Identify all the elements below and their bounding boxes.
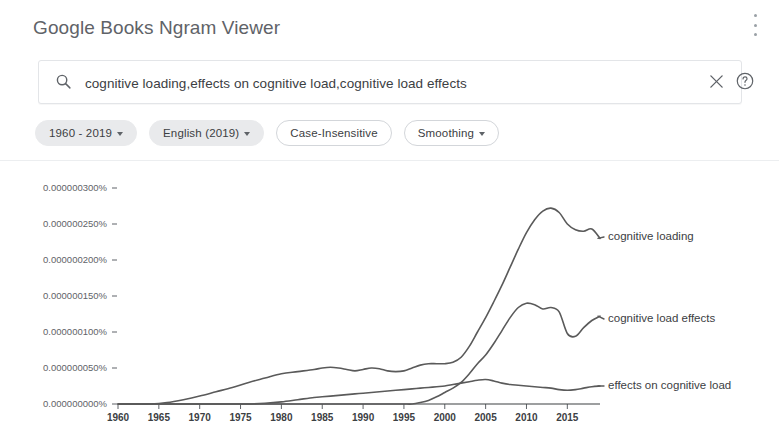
x-tick-label: 1980 [270,412,293,423]
chevron-down-icon [479,132,485,136]
y-tick-label: 0.000000200% [43,254,107,265]
y-tick-label: 0.000000300% [43,182,107,193]
y-tick-label: 0.000000150% [43,290,107,301]
more-vert-dot [754,14,757,17]
x-tick-label: 1995 [393,412,416,423]
y-tick-label: 0.000000000% [43,398,107,409]
search-icon [55,73,72,90]
series-line[interactable] [118,303,600,404]
chip-case-insensitive[interactable]: Case-Insensitive [276,120,391,146]
series-labels: cognitive loadingcognitive load effectse… [598,230,731,391]
chip-case-insensitive-label: Case-Insensitive [290,127,377,139]
more-vert-icon[interactable] [748,12,762,38]
chip-corpus-label: English (2019) [163,127,239,139]
close-icon[interactable] [709,74,724,89]
series-leader-line [598,316,604,319]
x-tick-label: 1965 [148,412,171,423]
y-tick-label: 0.000000100% [43,326,107,337]
chip-date-range-label: 1960 - 2019 [49,127,112,139]
more-vert-dot [754,24,757,27]
x-tick-label: 2010 [515,412,538,423]
x-tick-label: 1985 [311,412,334,423]
y-axis: 0.000000000%0.000000050%0.000000100%0.00… [43,182,117,409]
ngram-chart[interactable]: 0.000000000%0.000000050%0.000000100%0.00… [0,166,779,431]
chevron-down-icon [117,132,123,136]
filter-chips: 1960 - 2019 English (2019) Case-Insensit… [35,120,499,146]
x-axis: 1960196519701975198019851990199520002005… [107,404,579,423]
chip-date-range[interactable]: 1960 - 2019 [35,120,137,146]
x-tick-label: 2000 [434,412,457,423]
page-title: Google Books Ngram Viewer [33,17,280,39]
chart-canvas[interactable]: 0.000000000%0.000000050%0.000000100%0.00… [0,166,779,431]
x-tick-label: 2005 [475,412,498,423]
x-tick-label: 1975 [229,412,252,423]
chip-smoothing[interactable]: Smoothing [404,120,499,146]
more-vert-dot [754,33,757,36]
series-line[interactable] [118,380,600,405]
x-tick-label: 2015 [556,412,579,423]
series-lines[interactable] [118,208,600,404]
x-tick-label: 1990 [352,412,375,423]
x-tick-label: 1960 [107,412,130,423]
search-bar[interactable] [38,60,742,104]
x-tick-label: 1970 [189,412,212,423]
series-line[interactable] [118,208,600,404]
y-tick-label: 0.000000050% [43,362,107,373]
series-label: cognitive loading [608,230,694,242]
header-divider [0,160,779,161]
y-tick-label: 0.000000250% [43,218,107,229]
search-input[interactable] [83,61,687,105]
series-label: effects on cognitive load [608,379,731,391]
chevron-down-icon [244,132,250,136]
app-header: Google Books Ngram Viewer [0,0,779,52]
chip-corpus[interactable]: English (2019) [149,120,264,146]
chip-smoothing-label: Smoothing [418,127,474,139]
series-label: cognitive load effects [608,312,715,324]
help-circle-icon[interactable] [736,72,754,90]
